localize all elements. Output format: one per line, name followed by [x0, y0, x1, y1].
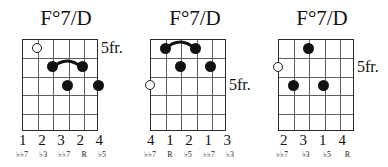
finger-number: 3	[224, 132, 232, 148]
interval-label: R	[81, 150, 86, 159]
finger-dot	[318, 80, 329, 91]
interval-label: ♭5	[323, 150, 331, 159]
finger-dot	[47, 61, 58, 72]
string-line	[340, 40, 341, 130]
finger-number: 3	[57, 132, 65, 148]
finger-number-row: 2314	[280, 132, 346, 148]
finger-number: 4	[339, 132, 347, 148]
finger-dot	[160, 43, 171, 54]
fret-position-label: 5fr.	[357, 59, 379, 75]
finger-dot	[62, 80, 73, 91]
fret-line	[279, 58, 353, 59]
fretboard	[22, 39, 98, 131]
interval-label: R	[345, 150, 350, 159]
interval-label: R	[167, 150, 172, 159]
chord-diagram-2: F°7/D5fr.41213♭♭7R♭5♭♭7♭3	[129, 0, 261, 167]
fret-line	[151, 114, 225, 115]
interval-label: ♭♭7	[276, 150, 288, 159]
open-string-circle	[273, 62, 283, 72]
finger-number: 2	[280, 132, 288, 148]
finger-number-row: 41213	[147, 132, 231, 148]
finger-number: 1	[204, 132, 212, 148]
fret-position-label: 5fr.	[101, 40, 123, 56]
finger-dot	[303, 43, 314, 54]
finger-number-row: 12324	[19, 132, 103, 148]
chord-diagram-3: F°7/D5fr.2314♭♭7♭3♭5R	[256, 0, 388, 167]
chord-diagram-1: F°7/D5fr.12324♭♭7♭3♭♭7R♭5	[0, 0, 132, 167]
chord-chart-sheet: F°7/D5fr.12324♭♭7♭3♭♭7R♭5F°7/D5fr.41213♭…	[0, 0, 388, 167]
fret-line	[151, 77, 225, 78]
chord-title: F°7/D	[0, 6, 132, 30]
finger-dot	[175, 61, 186, 72]
interval-label: ♭3	[39, 150, 47, 159]
finger-number: 3	[300, 132, 308, 148]
finger-number: 2	[38, 132, 46, 148]
interval-label: ♭♭7	[58, 150, 70, 159]
interval-label: ♭5	[184, 150, 192, 159]
fret-line	[23, 95, 97, 96]
fret-line	[23, 77, 97, 78]
chord-title: F°7/D	[256, 6, 388, 30]
interval-label: ♭3	[302, 150, 310, 159]
open-string-circle	[145, 80, 155, 90]
finger-number: 2	[185, 132, 193, 148]
interval-label: ♭5	[98, 150, 106, 159]
fret-line	[151, 95, 225, 96]
fret-line	[151, 58, 225, 59]
finger-number: 4	[147, 132, 155, 148]
fret-position-label: 5fr.	[229, 77, 251, 93]
string-line	[181, 40, 182, 130]
string-line	[38, 40, 39, 130]
string-line	[212, 40, 213, 130]
finger-number: 1	[166, 132, 174, 148]
finger-dot	[288, 80, 299, 91]
finger-number: 1	[19, 132, 27, 148]
finger-number: 2	[76, 132, 84, 148]
interval-row: ♭♭7♭3♭♭7R♭5	[16, 150, 106, 159]
fret-line	[279, 114, 353, 115]
interval-label: ♭♭7	[144, 150, 156, 159]
interval-label: ♭♭7	[203, 150, 215, 159]
finger-number: 1	[319, 132, 327, 148]
interval-row: ♭♭7R♭5♭♭7♭3	[144, 150, 234, 159]
fretboard	[278, 39, 354, 131]
fretboard	[150, 39, 226, 131]
finger-number: 4	[96, 132, 104, 148]
finger-dot	[190, 43, 201, 54]
fret-line	[279, 77, 353, 78]
interval-label: ♭3	[226, 150, 234, 159]
finger-dot	[93, 80, 104, 91]
interval-row: ♭♭7♭3♭5R	[276, 150, 350, 159]
fret-line	[279, 95, 353, 96]
chord-title: F°7/D	[129, 6, 261, 30]
fret-line	[23, 114, 97, 115]
interval-label: ♭♭7	[16, 150, 28, 159]
